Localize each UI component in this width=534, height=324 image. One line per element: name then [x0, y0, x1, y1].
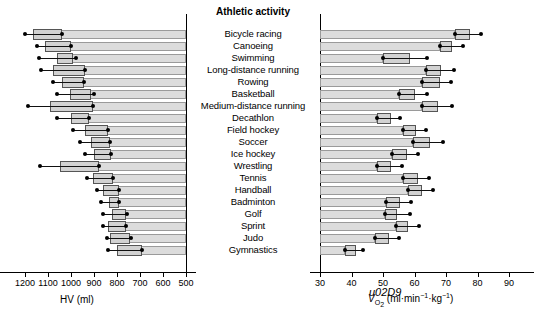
bar-row: [0, 88, 196, 100]
range-end-dot-low: [38, 164, 42, 168]
value-bar: [320, 162, 377, 171]
range-end-dot-low: [39, 68, 43, 72]
range-whisker: [53, 82, 84, 83]
range-end-dot-low: [375, 164, 379, 168]
bar-row: [0, 196, 196, 208]
range-end-dot-high: [92, 92, 96, 96]
activity-label: Bicycle racing: [196, 28, 310, 40]
range-end-dot-high: [117, 200, 121, 204]
bar-row: [310, 232, 534, 244]
axis-tick: [415, 273, 416, 277]
value-bar: [320, 234, 375, 243]
bar-row: [310, 196, 534, 208]
range-end-dot-low: [438, 44, 442, 48]
range-end-dot-high: [361, 248, 365, 252]
bar-row: [310, 40, 534, 52]
axis-tick: [446, 273, 447, 277]
value-bar: [71, 78, 186, 87]
range-end-dot-low: [85, 176, 89, 180]
bar-row: [0, 220, 196, 232]
bar-row: [310, 52, 534, 64]
bar-row: [310, 220, 534, 232]
range-whisker: [97, 190, 119, 191]
range-end-dot-high: [111, 176, 115, 180]
bar-row: [0, 40, 196, 52]
value-bar: [320, 150, 392, 159]
activity-label: Gymnastics: [196, 244, 310, 256]
bar-row: [0, 136, 196, 148]
range-end-dot-low: [37, 56, 41, 60]
range-end-dot-high: [69, 44, 73, 48]
range-whisker: [85, 154, 111, 155]
range-end-dot-low: [406, 188, 410, 192]
range-whisker: [377, 118, 401, 119]
value-bar: [320, 246, 345, 255]
range-end-dot-high: [425, 56, 429, 60]
range-end-dot-low: [55, 116, 59, 120]
range-whisker: [455, 34, 480, 35]
range-whisker: [73, 130, 108, 131]
value-bar: [101, 138, 186, 147]
range-end-dot-low: [101, 224, 105, 228]
value-bar: [320, 138, 413, 147]
value-bar: [103, 174, 186, 183]
range-end-dot-low: [99, 200, 103, 204]
range-end-dot-high: [427, 176, 431, 180]
range-end-dot-low: [83, 152, 87, 156]
range-end-dot-high: [441, 140, 445, 144]
range-whisker: [375, 238, 399, 239]
range-end-dot-low: [420, 104, 424, 108]
bar-row: [310, 100, 534, 112]
bar-row: [0, 148, 196, 160]
vo2-subscript: O2: [375, 299, 384, 306]
value-bar: [115, 198, 186, 207]
range-whisker: [403, 178, 428, 179]
range-whisker: [422, 82, 450, 83]
range-end-dot-low: [23, 32, 27, 36]
range-end-dot-low: [343, 248, 347, 252]
range-whisker: [408, 190, 433, 191]
range-whisker: [39, 58, 76, 59]
value-bar: [80, 90, 186, 99]
range-end-dot-high: [106, 128, 110, 132]
activity-label: Medium-distance running: [196, 100, 310, 112]
left-axis-title: HV (ml): [60, 294, 94, 305]
axis-tick: [352, 273, 353, 277]
range-whisker: [80, 142, 110, 143]
bar-row: [0, 112, 196, 124]
range-end-dot-low: [105, 236, 109, 240]
range-whisker: [41, 70, 85, 71]
range-whisker: [422, 106, 452, 107]
range-end-dot-low: [420, 80, 424, 84]
range-whisker: [28, 106, 92, 107]
range-whisker: [413, 142, 443, 143]
range-end-dot-low: [383, 212, 387, 216]
range-end-dot-high: [408, 212, 412, 216]
value-bar: [47, 30, 186, 39]
chart-title: Athletic activity: [196, 6, 310, 17]
value-bar: [320, 54, 383, 63]
range-end-dot-high: [397, 236, 401, 240]
dual-panel-bar-chart: 120011001000900800700600500 HV (ml) Athl…: [0, 0, 534, 324]
activity-label: Sprint: [196, 220, 310, 232]
activity-label: Judo: [196, 232, 310, 244]
bar-row: [310, 184, 534, 196]
activity-label: Wrestling: [196, 160, 310, 172]
activity-label: Soccer: [196, 136, 310, 148]
range-end-dot-high: [124, 224, 128, 228]
axis-tick: [320, 273, 321, 277]
range-end-dot-high: [91, 104, 95, 108]
range-end-dot-low: [55, 92, 59, 96]
range-whisker: [103, 214, 127, 215]
range-end-dot-low: [397, 92, 401, 96]
axis-tick: [383, 273, 384, 277]
range-end-dot-high: [431, 188, 435, 192]
value-bar: [320, 174, 403, 183]
range-whisker: [377, 166, 402, 167]
activity-label: Golf: [196, 208, 310, 220]
bar-row: [0, 160, 196, 172]
axis-tick: [25, 273, 26, 277]
range-end-dot-high: [97, 164, 101, 168]
range-whisker: [37, 46, 72, 47]
left-axis-line: [0, 272, 196, 273]
